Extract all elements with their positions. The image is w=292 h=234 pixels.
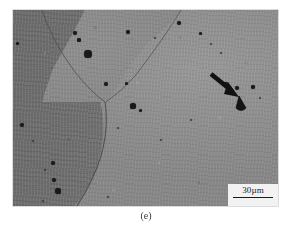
micrograph-image: 30µm <box>13 10 278 206</box>
second-phase-particle <box>199 32 202 35</box>
second-phase-particle <box>84 50 91 57</box>
figure-caption: (e) <box>0 210 292 221</box>
second-phase-particle <box>130 103 135 108</box>
second-phase-particle <box>104 82 108 86</box>
second-phase-particle <box>251 85 255 89</box>
scale-bar-line <box>233 197 273 198</box>
second-phase-particle <box>77 38 80 41</box>
second-phase-particle <box>16 42 19 45</box>
scale-bar-label: 30µm <box>242 184 264 196</box>
etch-texture-overlay <box>13 10 278 206</box>
second-phase-particle <box>139 109 142 112</box>
scale-bar: 30µm <box>228 184 278 206</box>
second-phase-particle <box>125 82 128 85</box>
second-phase-particle <box>55 188 60 193</box>
figure-root: 30µm (e) <box>0 0 292 234</box>
second-phase-particle <box>51 161 55 165</box>
second-phase-particle <box>126 30 130 34</box>
second-phase-particle <box>177 21 181 25</box>
second-phase-particle <box>224 82 227 85</box>
